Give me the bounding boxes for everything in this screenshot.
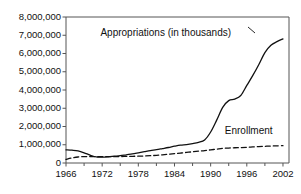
appropriations-enrollment-chart: 01,000,0002,000,0003,000,0004,000,0005,0… [0, 0, 301, 194]
y-axis-ticks [63, 17, 67, 163]
y-axis-tick-label: 3,000,000 [19, 103, 61, 113]
y-axis-tick-label: 0 [56, 158, 61, 168]
y-axis-tick-label: 2,000,000 [19, 121, 61, 131]
y-axis-tick-label: 8,000,000 [19, 12, 61, 22]
y-axis-tick-label: 1,000,000 [19, 139, 61, 149]
enrollment-series-label: Enrollment [225, 125, 273, 136]
series-line-appropriations [66, 39, 283, 157]
appropriations-series-label: Appropriations (in thousands) [100, 27, 231, 38]
axis-frame [66, 17, 289, 163]
x-axis-tick-label: 1972 [82, 169, 122, 179]
y-axis-tick-label: 5,000,000 [19, 66, 61, 76]
x-axis-ticks [66, 163, 283, 167]
y-axis-tick-label: 4,000,000 [19, 85, 61, 95]
x-axis-tick-label: 1990 [191, 169, 231, 179]
y-axis-tick-label: 7,000,000 [19, 30, 61, 40]
x-axis-tick-label: 1966 [46, 169, 86, 179]
x-axis-tick-label: 1996 [227, 169, 267, 179]
x-axis-tick-label: 2002 [263, 169, 301, 179]
x-axis-tick-label: 1978 [118, 169, 158, 179]
series-line-enrollment [66, 146, 283, 160]
appropriations-leader-line [248, 27, 255, 33]
x-axis-tick-label: 1984 [154, 169, 194, 179]
y-axis-tick-label: 6,000,000 [19, 48, 61, 58]
